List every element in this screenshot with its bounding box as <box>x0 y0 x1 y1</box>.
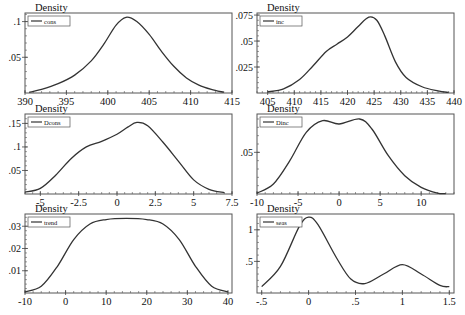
density-panel-trend: Density.01.02.03-10010203040trend <box>9 203 234 307</box>
x-tick-label: -10 <box>18 296 32 307</box>
y-tick-label: .025 <box>236 62 254 73</box>
density-panel-dcons: Density.05.1.15-5-2.502.557.5Dcons <box>9 103 239 208</box>
y-tick-label: .05 <box>9 165 22 176</box>
legend: inc <box>260 16 302 26</box>
legend: seas <box>260 217 302 227</box>
x-tick-label: 40 <box>223 296 234 307</box>
y-tick-label: .5 <box>246 256 254 267</box>
legend: Dcons <box>28 117 70 127</box>
x-tick-label: 390 <box>17 96 33 107</box>
legend: trend <box>28 217 70 227</box>
x-tick-label: 0 <box>306 296 311 307</box>
x-tick-label: 0 <box>63 296 68 307</box>
x-tick-label: 430 <box>393 96 409 107</box>
x-tick-label: 405 <box>141 96 157 107</box>
y-axis-label: Density <box>35 203 68 214</box>
y-tick-label: 1 <box>248 224 253 235</box>
y-tick-label: .05 <box>241 147 254 158</box>
x-tick-label: 420 <box>340 96 356 107</box>
y-tick-label: .01 <box>9 265 22 276</box>
x-tick-label: 440 <box>446 96 462 107</box>
legend-label: Dcons <box>44 119 61 126</box>
y-axis-label: Density <box>267 2 300 13</box>
x-tick-label: 30 <box>182 296 193 307</box>
x-tick-label: 7.5 <box>225 197 238 208</box>
y-tick-label: .1 <box>14 141 22 152</box>
x-tick-label: 415 <box>313 96 329 107</box>
legend-label: trend <box>44 219 58 226</box>
y-tick-label: .05 <box>241 36 254 47</box>
y-axis-label: Density <box>35 103 68 114</box>
y-tick-label: .05 <box>9 52 22 63</box>
density-panel-cons: Density.05.1390395400405410415cons <box>9 2 240 107</box>
y-tick-label: .075 <box>236 10 254 21</box>
density-panel-dinc: Density.05-10-50510Dinc <box>241 103 455 208</box>
x-tick-label: 1.5 <box>443 296 456 307</box>
x-tick-label: 1 <box>400 296 405 307</box>
legend-label: seas <box>276 219 287 226</box>
legend: cons <box>28 16 70 26</box>
x-tick-label: 2.5 <box>149 197 162 208</box>
x-tick-label: 435 <box>420 96 436 107</box>
x-tick-label: -2.5 <box>70 197 87 208</box>
legend: Dinc <box>260 117 302 127</box>
density-panel-seas: Density.51-.50.511.5seas <box>246 203 456 307</box>
y-axis-label: Density <box>267 103 300 114</box>
legend-label: cons <box>44 18 56 25</box>
y-tick-label: .03 <box>9 221 22 232</box>
y-tick-label: .02 <box>9 243 22 254</box>
x-tick-label: .5 <box>352 296 360 307</box>
density-plot-grid: Density.05.1390395400405410415consDensit… <box>0 0 465 315</box>
x-tick-label: 5 <box>191 197 196 208</box>
density-panel-inc: Density.025.05.0754054104154204254304354… <box>236 2 462 107</box>
x-tick-label: 0 <box>336 197 341 208</box>
y-axis-label: Density <box>35 2 68 13</box>
legend-label: inc <box>276 18 284 25</box>
x-tick-label: 415 <box>224 96 240 107</box>
x-tick-label: -10 <box>250 197 264 208</box>
x-tick-label: 10 <box>101 296 112 307</box>
y-tick-label: .15 <box>9 118 22 129</box>
x-tick-label: 400 <box>100 96 116 107</box>
x-tick-label: 0 <box>114 197 119 208</box>
x-tick-label: -.5 <box>256 296 267 307</box>
x-tick-label: 10 <box>416 197 427 208</box>
x-tick-label: 425 <box>366 96 382 107</box>
x-tick-label: 5 <box>378 197 383 208</box>
y-tick-label: .1 <box>14 16 22 27</box>
x-tick-label: 20 <box>142 296 153 307</box>
legend-label: Dinc <box>276 119 289 126</box>
x-tick-label: 410 <box>183 96 199 107</box>
y-axis-label: Density <box>267 203 300 214</box>
